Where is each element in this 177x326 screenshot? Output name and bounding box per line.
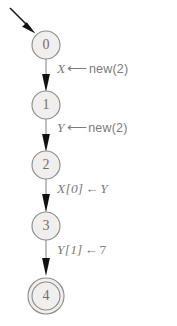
edge-label-1-rhs: new(2): [88, 121, 127, 135]
node-1-label: 1: [43, 97, 50, 112]
node-4-final[interactable]: 4: [28, 278, 64, 314]
edge-label-0-operator: ⟵: [65, 61, 89, 76]
edge-1-to-2: [42, 119, 50, 152]
edge-label-2-operator: ←: [83, 181, 100, 196]
node-0-label: 0: [43, 37, 50, 52]
edge-label-2-lhs: X[0]: [57, 181, 83, 196]
edge-label-3-lhs: Y[1]: [57, 242, 83, 257]
cfg-diagram: 0 1 2 3 4 X⟵new(2) Y⟵new(2) X[0]←Y: [0, 0, 177, 326]
edge-label-1: Y⟵new(2): [57, 121, 128, 135]
edge-label-3-rhs: 7: [100, 242, 107, 257]
edge-label-0-rhs: new(2): [89, 62, 128, 76]
edge-label-1-operator: ⟵: [65, 120, 89, 135]
node-2[interactable]: 2: [32, 151, 60, 179]
node-1[interactable]: 1: [32, 91, 60, 119]
edge-label-2-rhs: Y: [100, 181, 108, 196]
edge-label-0: X⟵new(2): [57, 62, 128, 76]
node-3-label: 3: [43, 218, 50, 233]
node-2-label: 2: [43, 157, 50, 172]
entry-arrow: [10, 8, 35, 33]
edge-0-to-1: [42, 59, 50, 92]
node-3[interactable]: 3: [32, 212, 60, 240]
edge-label-1-lhs: Y: [57, 120, 65, 135]
cfg-canvas: 0 1 2 3 4: [0, 0, 177, 326]
edge-label-3-operator: ←: [83, 242, 100, 257]
edge-label-2: X[0]←Y: [57, 182, 108, 196]
edge-label-3: Y[1]←7: [57, 243, 107, 257]
node-4-label: 4: [43, 288, 50, 303]
edge-2-to-3: [42, 179, 50, 213]
edge-3-to-4: [42, 240, 50, 276]
node-0[interactable]: 0: [32, 31, 60, 59]
